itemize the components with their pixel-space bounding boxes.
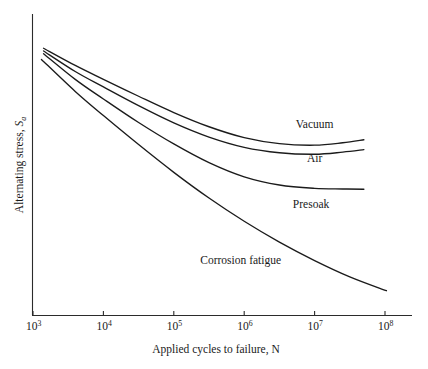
x-tick-label: 104 bbox=[96, 319, 112, 333]
x-axis-tick-labels: 103104105106107108 bbox=[26, 319, 394, 333]
curve-vacuum bbox=[44, 48, 364, 145]
curve-label-presoak: Presoak bbox=[293, 198, 330, 210]
x-tick-label: 108 bbox=[378, 319, 394, 333]
x-tick-label: 103 bbox=[26, 319, 42, 333]
axes bbox=[32, 14, 412, 316]
x-axis-ticks bbox=[33, 311, 385, 316]
x-axis-title: Applied cycles to failure, N bbox=[152, 343, 280, 356]
y-axis-title-group: Alternating stress, Sa bbox=[13, 117, 28, 213]
curve-label-vacuum: Vacuum bbox=[296, 118, 334, 130]
curve-air bbox=[44, 51, 364, 154]
x-tick-label: 106 bbox=[237, 319, 253, 333]
sn-curve-figure: VacuumAirPresoakCorrosion fatigue 103104… bbox=[0, 0, 428, 369]
curve-label-corrosion: Corrosion fatigue bbox=[200, 254, 281, 267]
chart-canvas: VacuumAirPresoakCorrosion fatigue 103104… bbox=[0, 0, 428, 369]
x-tick-label: 107 bbox=[308, 319, 324, 333]
x-tick-label: 105 bbox=[167, 319, 183, 333]
curve-label-air: Air bbox=[307, 152, 323, 164]
y-axis-title: Alternating stress, Sa bbox=[13, 117, 28, 213]
